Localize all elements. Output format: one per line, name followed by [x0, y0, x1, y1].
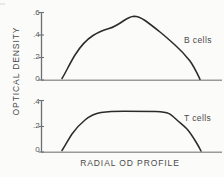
curve-t-cells: [62, 111, 201, 151]
curve-b-cells: [62, 16, 200, 79]
plot-svg: [0, 0, 224, 177]
figure-container: OPTICAL DENSITY RADIAL OD PROFILE .6 .4 …: [0, 0, 224, 177]
